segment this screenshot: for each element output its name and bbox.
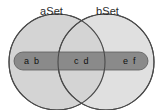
set-label-a: aSet [40, 5, 63, 17]
venn-diagram-svg [0, 0, 166, 110]
venn-diagram-figure: aSet bSet a b c d e f [0, 0, 166, 110]
bar-label-a-only: a b [24, 56, 40, 66]
bar-label-b-only: e f [123, 56, 137, 66]
set-label-b: bSet [96, 5, 119, 17]
bar-label-intersection: c d [74, 56, 90, 66]
